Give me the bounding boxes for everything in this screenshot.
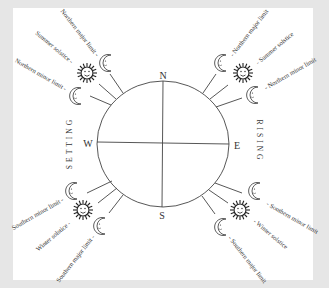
moon-icon [94, 218, 105, 235]
nw-label-0: Northern major limit - [60, 8, 101, 58]
sun-icon [230, 200, 250, 220]
compass-east: E [234, 140, 240, 151]
se-label-0: - Southern minor limit [266, 200, 320, 235]
sun-icon [77, 63, 97, 83]
moon-icon [249, 183, 260, 200]
rising-label: RISING [255, 119, 264, 162]
north-south-axis [162, 81, 163, 207]
moon-icon [247, 87, 258, 104]
ne-label-0: - Northern major limit [228, 7, 269, 57]
setting-label: SETTING [65, 117, 74, 169]
nw-label-1: Summer solstice - [34, 29, 74, 65]
sw-label-2: Southern major limit - [55, 233, 96, 283]
ne-label-1: - Summer solstice [254, 30, 295, 66]
compass-south: S [159, 210, 165, 221]
compass-north: N [159, 70, 166, 81]
moon-icon [100, 55, 111, 72]
sun-icon [73, 200, 93, 220]
se-label-1: - Winter solstice [252, 217, 289, 250]
east-west-axis [97, 142, 229, 144]
moon-icon [66, 183, 77, 200]
se-label-2: - Southern major limit [227, 234, 268, 284]
horizon-diagram: N S W E SETTING RISING Northern major li… [0, 0, 329, 288]
ne-label-2: - Northern minor limit [263, 56, 317, 91]
moon-icon [215, 55, 226, 72]
nw-label-2: Northern minor limit - [14, 57, 68, 92]
moon-icon [215, 219, 226, 236]
sun-icon [233, 63, 253, 83]
moon-icon [70, 88, 81, 105]
compass-west: W [83, 138, 93, 149]
sw-label-1: Winter solstice - [34, 219, 71, 252]
sw-label-0: Southern minor limit - [10, 196, 64, 231]
